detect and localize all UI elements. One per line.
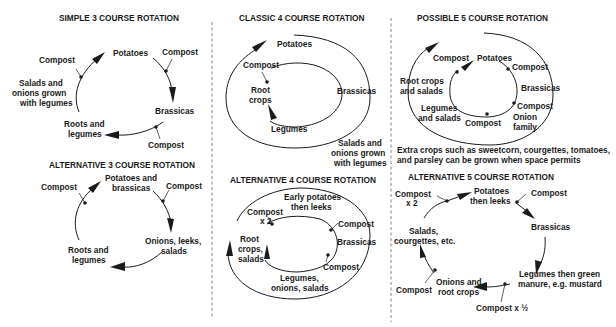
leader-line: [425, 270, 435, 283]
label-onion-family: Onion family: [513, 112, 539, 132]
label-potatoes-then-leeks: Potatoes then leeks: [470, 186, 511, 206]
leader-line: [76, 69, 81, 77]
label-compost: Compost: [531, 188, 567, 198]
panel-alternative-5-course: ALTERNATIVE 5 COURSE ROTATION Compost x …: [394, 172, 602, 313]
leader-line: [156, 127, 160, 139]
leader-line: [166, 59, 172, 71]
label-onions-and-root-crops: Onions and root crops: [436, 277, 484, 297]
panel-classic-4-course: CLASSIC 4 COURSE ROTATION Potatoes Compo…: [226, 13, 388, 168]
label-compost: Compost: [396, 285, 432, 295]
label-brassicas: Brassicas: [531, 222, 571, 232]
arrow-head: [226, 240, 233, 256]
label-legumes-green-manure: Legumes then green manure, e.g. mustard: [518, 269, 602, 289]
rotation-arc: [75, 188, 93, 240]
label-roots-and-legumes: Roots and legumes: [64, 119, 107, 139]
label-potatoes: Potatoes: [113, 48, 148, 58]
panel-alternative-4-course: ALTERNATIVE 4 COURSE ROTATION Early pota…: [226, 175, 377, 299]
note-salads-onions: Salads and onions grown with legumes: [12, 78, 73, 108]
rotation-arc: [76, 58, 98, 112]
note-extra-crops: Extra crops such as sweetcorn, courgette…: [397, 145, 612, 165]
label-legumes-onions-salads: Legumes, onions, salads: [271, 273, 329, 293]
label-potatoes-and-brassicas: Potatoes and brassicas: [105, 173, 159, 193]
arrow-head: [522, 208, 535, 219]
label-compost: Compost: [148, 140, 184, 150]
label-root-crops-salads: Root crops, salads: [238, 234, 265, 264]
panel-title: ALTERNATIVE 3 COURSE ROTATION: [49, 160, 195, 170]
label-compost: Compost: [41, 182, 77, 192]
label-salads-courgettes: Salads, courgettes, etc.: [394, 226, 455, 246]
panel-alternative-3-course: ALTERNATIVE 3 COURSE ROTATION Potatoes a…: [41, 160, 204, 271]
panel-simple-3-course: SIMPLE 3 COURSE ROTATION Potatoes Compos…: [12, 13, 198, 150]
leader-line: [501, 284, 505, 302]
label-compost: Compost: [465, 118, 501, 128]
panel-title: ALTERNATIVE 5 COURSE ROTATION: [408, 172, 554, 182]
label-compost: Compost: [433, 53, 469, 63]
label-compost: Compost: [166, 181, 202, 191]
compost-dot: [512, 101, 516, 105]
leader-line: [331, 223, 338, 230]
panel-title: POSSIBLE 5 COURSE ROTATION: [417, 13, 548, 23]
leader-line: [163, 190, 169, 201]
note-salads-onions: Salads and onions grown with legumes: [331, 138, 388, 168]
arrow-head: [104, 131, 119, 139]
label-compost: Compost: [512, 62, 548, 72]
leader-line: [517, 194, 526, 202]
label-compost: Compost: [323, 262, 359, 272]
rotation-arc: [153, 191, 171, 222]
compost-dot: [485, 112, 489, 116]
label-onions-leeks-salads: Onions, leeks, salads: [145, 236, 204, 256]
label-roots-and-legumes: Roots and legumes: [68, 245, 111, 265]
label-legumes-and-salads: Legumes and salads: [418, 103, 461, 123]
leader-line: [437, 196, 447, 201]
rotation-arc: [124, 252, 162, 267]
label-brassicas: Brassicas: [337, 237, 377, 247]
label-legumes: Legumes: [271, 124, 308, 134]
arrow-head: [420, 244, 426, 258]
crop-rotation-diagram: SIMPLE 3 COURSE ROTATION Potatoes Compos…: [0, 0, 616, 327]
leader-line: [262, 72, 267, 82]
label-compost-x2: Compost x 2: [247, 207, 285, 226]
label-compost-half: Compost x ½: [476, 303, 528, 313]
arrow-head: [425, 42, 439, 53]
inner-ring: [270, 63, 342, 127]
compost-dot: [506, 67, 510, 71]
arrow-head: [268, 104, 277, 120]
rotation-arc: [424, 197, 458, 218]
label-brassicas: Brassicas: [155, 106, 195, 116]
label-brassicas: Brassicas: [337, 86, 377, 96]
label-compost: Compost: [162, 47, 198, 57]
label-compost: Compost: [39, 55, 75, 65]
label-potatoes: Potatoes: [277, 39, 312, 49]
arrow-head: [110, 262, 125, 271]
arrow-head: [169, 87, 176, 103]
panel-title: SIMPLE 3 COURSE ROTATION: [59, 13, 179, 23]
label-compost: Compost: [243, 60, 279, 70]
label-compost: Compost: [517, 101, 553, 111]
label-compost: Compost: [338, 219, 374, 229]
label-root-crops: Root crops: [249, 85, 272, 105]
label-brassicas: Brassicas: [521, 83, 561, 93]
arrow-head: [167, 218, 174, 233]
label-potatoes: Potatoes: [477, 53, 512, 63]
compost-dot: [455, 70, 459, 74]
panel-possible-5-course: POSSIBLE 5 COURSE ROTATION Compost Potat…: [397, 13, 612, 165]
label-compost-x2: Compost x 2: [395, 189, 433, 208]
panel-title: CLASSIC 4 COURSE ROTATION: [239, 13, 365, 23]
panel-title: ALTERNATIVE 4 COURSE ROTATION: [230, 175, 376, 185]
rotation-arc: [153, 58, 172, 92]
label-early-potatoes-then-leeks: Early potatoes then leeks: [284, 192, 344, 212]
label-root-crops-and-salads: Root crops and salads: [400, 76, 446, 96]
